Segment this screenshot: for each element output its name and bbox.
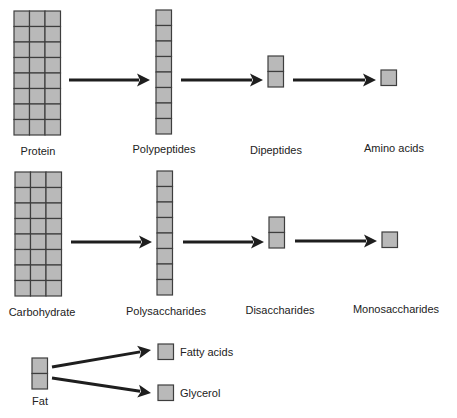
block-cell [157,233,173,249]
block-polysaccharides [157,171,173,295]
block-cell [30,73,46,89]
block-fatty-acids [158,344,174,360]
block-cell [31,234,47,250]
block-cell [156,26,172,42]
block-disaccharides [269,217,285,248]
block-cell [15,265,31,281]
block-cell [157,280,173,296]
block-cell [15,172,31,188]
block-cell [46,219,62,235]
block-cell [268,72,284,88]
block-cell [157,264,173,280]
block-cell [14,89,30,105]
block-cell [14,120,30,136]
block-cell [30,11,46,27]
arrow-shaft [52,378,140,391]
block-cell [157,171,173,187]
block-cell [46,234,62,250]
block-polypeptides [156,10,172,134]
block-cell [14,73,30,89]
block-cell [46,188,62,204]
arrow-protein-to-polypeptides [69,74,150,87]
block-cell [32,374,48,390]
block-monosaccharides [382,232,398,248]
block-cell [14,58,30,74]
arrow-fat-to-fatty-acids [52,346,151,367]
arrow-carbohydrate-to-polysaccharides [71,236,152,249]
block-cell [46,172,62,188]
arrow-polypeptides-to-dipeptides [181,74,263,87]
block-cell [15,188,31,204]
block-protein [14,11,61,135]
block-cell [156,119,172,135]
block-cell [45,120,61,136]
diagram-shapes [14,10,398,401]
block-cell [268,56,284,72]
block-cell [157,218,173,234]
block-cell [156,103,172,119]
block-cell [15,234,31,250]
block-cell [156,57,172,73]
block-cell [46,250,62,266]
arrow-polysaccharides-to-disaccharides [183,236,264,249]
label-polysaccharides: Polysaccharides [126,305,207,317]
label-monosaccharides: Monosaccharides [353,303,440,315]
block-cell [45,104,61,120]
block-cell [15,203,31,219]
block-cell [156,10,172,26]
block-cell [31,188,47,204]
block-cell [382,232,398,248]
block-dipeptides [268,56,284,87]
block-cell [157,202,173,218]
block-cell [31,250,47,266]
block-cell [31,203,47,219]
label-glycerol: Glycerol [180,387,220,399]
label-polypeptides: Polypeptides [133,143,196,155]
block-cell [156,72,172,88]
block-cell [31,172,47,188]
block-cell [45,58,61,74]
label-dipeptides: Dipeptides [250,144,302,156]
block-cell [15,250,31,266]
block-glycerol [158,385,174,401]
block-cell [45,73,61,89]
block-cell [158,385,174,401]
label-carbohydrate: Carbohydrate [9,306,76,318]
arrow-disaccharides-to-monosaccharides [295,235,377,248]
block-cell [46,203,62,219]
block-cell [14,42,30,58]
block-cell [381,70,397,86]
block-cell [14,104,30,120]
block-cell [157,249,173,265]
block-amino-acids [381,70,397,86]
block-cell [15,281,31,297]
block-cell [156,88,172,104]
block-fat [32,358,48,389]
block-cell [46,265,62,281]
block-cell [30,89,46,105]
block-carbohydrate [15,172,62,296]
label-protein: Protein [21,145,56,157]
arrow-fat-to-glycerol [52,378,151,397]
label-fatty-acids: Fatty acids [180,346,234,358]
block-cell [45,11,61,27]
block-cell [30,42,46,58]
block-cell [30,120,46,136]
label-amino-acids: Amino acids [364,142,424,154]
arrow-dipeptides-to-amino-acids [293,74,376,87]
block-cell [30,27,46,43]
block-cell [30,104,46,120]
label-fat: Fat [32,395,48,407]
block-cell [14,27,30,43]
block-cell [31,265,47,281]
label-disaccharides: Disaccharides [245,304,315,316]
block-cell [45,42,61,58]
block-cell [14,11,30,27]
block-cell [157,187,173,203]
block-cell [15,219,31,235]
block-cell [31,281,47,297]
block-cell [45,89,61,105]
block-cell [269,217,285,233]
arrow-shaft [52,352,140,367]
block-cell [269,233,285,249]
